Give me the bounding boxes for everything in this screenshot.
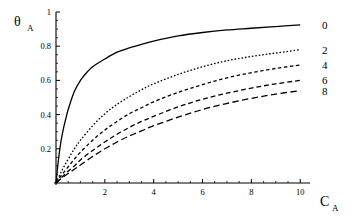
x-tick-label: 6	[200, 187, 204, 197]
series-end-label-0: 0	[322, 19, 328, 31]
adsorption-isotherm-chart: 2468100.20.40.60.81 02468 θ A C A	[0, 0, 354, 221]
y-tick-label: 1	[47, 7, 51, 17]
y-tick-label: 0.4	[40, 110, 51, 120]
x-axis-label: C	[320, 194, 329, 209]
x-tick-label: 10	[296, 187, 305, 197]
x-tick-label: 8	[249, 187, 253, 197]
series-end-label-4: 4	[322, 59, 328, 71]
series-end-label-8: 8	[322, 85, 328, 97]
series-end-label-2: 2	[322, 44, 328, 56]
x-tick-label: 2	[103, 187, 107, 197]
y-axis-label-subscript: A	[27, 23, 34, 33]
x-axis-label-subscript: A	[332, 203, 339, 213]
y-tick-label: 0.8	[40, 41, 51, 51]
x-tick-label: 4	[152, 187, 157, 197]
y-tick-label: 0.6	[40, 75, 51, 85]
chart-figure: 2468100.20.40.60.81 02468 θ A C A	[0, 0, 354, 221]
y-tick-label: 0.2	[40, 144, 51, 154]
y-axis-label: θ	[14, 14, 21, 29]
